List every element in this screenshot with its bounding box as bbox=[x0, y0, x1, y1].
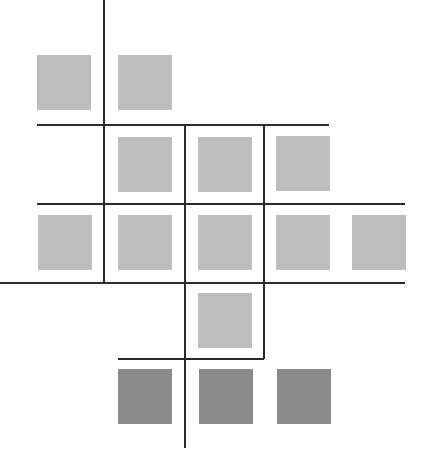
light-square bbox=[276, 136, 330, 191]
horizontal-grid-line bbox=[118, 358, 264, 360]
dark-square bbox=[199, 369, 253, 424]
vertical-grid-line bbox=[184, 125, 186, 448]
light-square bbox=[37, 55, 91, 110]
light-square bbox=[118, 55, 172, 110]
light-square bbox=[198, 137, 252, 192]
light-square bbox=[118, 215, 172, 270]
horizontal-grid-line bbox=[0, 282, 405, 284]
vertical-grid-line bbox=[263, 125, 265, 359]
light-square bbox=[352, 215, 406, 270]
light-square bbox=[38, 215, 92, 270]
light-square bbox=[276, 215, 330, 270]
grid-diagram bbox=[0, 0, 425, 450]
vertical-grid-line bbox=[103, 0, 105, 283]
horizontal-grid-line bbox=[37, 203, 405, 205]
light-square bbox=[198, 293, 252, 348]
light-square bbox=[118, 137, 172, 192]
dark-square bbox=[118, 369, 172, 424]
dark-square bbox=[277, 369, 331, 424]
light-square bbox=[198, 215, 252, 270]
horizontal-grid-line bbox=[37, 124, 329, 126]
